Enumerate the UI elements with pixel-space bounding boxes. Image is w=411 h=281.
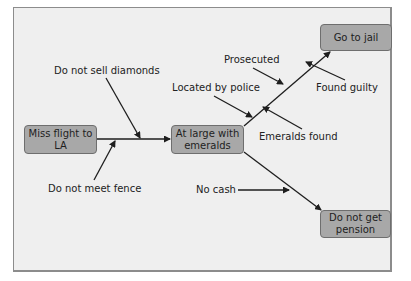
node-go-to-jail-label: Go to jail — [334, 32, 379, 44]
node-go-to-jail: Go to jail — [320, 24, 392, 51]
node-at-large-line1: At large with — [176, 128, 240, 139]
cause-label-fence: Do not meet fence — [48, 183, 141, 195]
node-miss-flight-line2: LA — [54, 140, 67, 151]
node-at-large-line2: emeralds — [184, 140, 231, 151]
cause-label-diamonds: Do not sell diamonds — [54, 65, 160, 77]
cause-arrow-guilty — [306, 62, 345, 80]
node-at-large: At large withemeralds — [171, 125, 244, 154]
node-miss-flight-line1: Miss flight to — [29, 128, 93, 139]
node-no-pension-line2: pension — [336, 224, 375, 235]
cause-label-emeralds: Emeralds found — [259, 131, 338, 143]
cause-arrow-emeralds — [263, 107, 302, 129]
cause-label-police: Located by police — [172, 82, 260, 94]
cause-arrow-fence — [94, 141, 115, 180]
node-no-pension: Do not getpension — [320, 210, 391, 238]
cause-label-no-cash: No cash — [196, 184, 236, 196]
cause-label-prosecuted: Prosecuted — [224, 54, 279, 66]
node-miss-flight: Miss flight toLA — [24, 125, 97, 154]
node-no-pension-line1: Do not get — [329, 212, 382, 223]
edge-at-large-to-pension — [244, 152, 321, 210]
cause-label-guilty: Found guilty — [316, 82, 378, 94]
cause-arrow-police — [214, 96, 252, 117]
cause-arrow-diamonds — [106, 78, 140, 138]
